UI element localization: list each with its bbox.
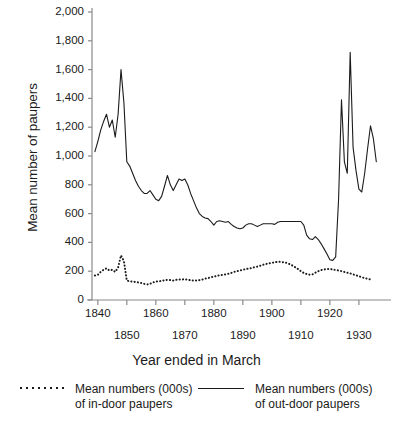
legend-entry-out-door: Mean numbers (000s) of out-door paupers bbox=[196, 382, 372, 412]
plot-area bbox=[0, 0, 393, 320]
chart-legend: Mean numbers (000s) of in-door paupers M… bbox=[0, 382, 393, 430]
legend-label-in-door-line1: Mean numbers (000s) bbox=[75, 382, 192, 397]
x-axis-tick-label: 1910 bbox=[288, 329, 314, 341]
dotted-line-swatch-icon bbox=[16, 382, 66, 394]
pauper-numbers-chart-figure: Mean number of paupers 02004006008001,00… bbox=[0, 0, 393, 431]
series-line-in-door-paupers bbox=[95, 255, 371, 284]
x-axis-tick-label: 1870 bbox=[172, 329, 198, 341]
legend-label-out-door-line2: of out-door paupers bbox=[255, 397, 372, 412]
solid-line-swatch-icon bbox=[196, 382, 246, 394]
legend-label-out-door-line1: Mean numbers (000s) bbox=[255, 382, 372, 397]
series-line-out-door-paupers bbox=[95, 52, 376, 260]
legend-entry-in-door: Mean numbers (000s) of in-door paupers bbox=[16, 382, 192, 412]
x-axis-tick-label: 1840 bbox=[85, 307, 111, 319]
x-axis-title: Year ended in March bbox=[0, 352, 393, 368]
x-axis-tick-label: 1850 bbox=[114, 329, 140, 341]
x-axis-tick-label: 1860 bbox=[143, 307, 169, 319]
legend-label-in-door: Mean numbers (000s) of in-door paupers bbox=[75, 382, 192, 412]
x-axis-tick-label: 1880 bbox=[201, 307, 227, 319]
legend-label-out-door: Mean numbers (000s) of out-door paupers bbox=[255, 382, 372, 412]
x-axis-tick-label: 1920 bbox=[317, 307, 343, 319]
x-axis-tick-label: 1900 bbox=[259, 307, 285, 319]
legend-label-in-door-line2: of in-door paupers bbox=[75, 397, 192, 412]
x-axis-tick-label: 1890 bbox=[230, 329, 256, 341]
x-axis-tick-label: 1930 bbox=[346, 329, 372, 341]
